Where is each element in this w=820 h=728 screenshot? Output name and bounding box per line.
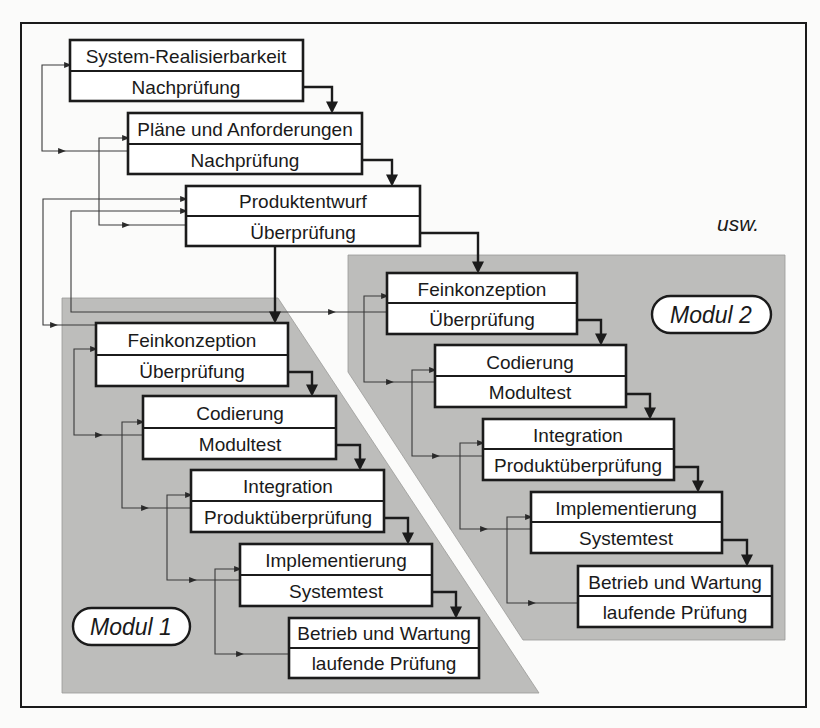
phase-check: Modultest [199,434,282,455]
phase-activity: Pläne und Anforderungen [137,119,353,140]
phase-system-realisierbarkeit: System-Realisierbarkeit Nachprüfung [70,40,303,101]
phase-activity: Feinkonzeption [128,330,257,351]
phase-check: Systemtest [289,581,384,602]
module-2-phase-codierung: Codierung Modultest [435,345,626,407]
phase-activity: Feinkonzeption [418,279,547,300]
module-1-label: Modul 1 [73,608,190,645]
module-2-phase-implementierung: Implementierung Systemtest [531,492,722,553]
module-1-phase-betrieb-wartung: Betrieb und Wartung laufende Prüfung [289,618,479,678]
phase-check: Überprüfung [250,222,356,243]
waterfall-diagram: System-Realisierbarkeit Nachprüfung Plän… [0,0,820,728]
module-2-phase-betrieb-wartung: Betrieb und Wartung laufende Prüfung [578,566,772,627]
phase-activity: Betrieb und Wartung [297,623,471,644]
module-1-phase-feinkonzeption: Feinkonzeption Überprüfung [96,323,288,386]
phase-plaene-anforderungen: Pläne und Anforderungen Nachprüfung [128,113,362,174]
module-1-phase-codierung: Codierung Modultest [143,396,336,459]
phase-activity: System-Realisierbarkeit [86,46,287,67]
phase-check: laufende Prüfung [312,653,457,674]
phase-activity: Integration [243,476,333,497]
continuation-label: usw. [717,212,759,235]
phase-check: Systemtest [579,528,674,549]
module-2-phase-feinkonzeption: Feinkonzeption Überprüfung [387,273,577,334]
phase-check: Modultest [489,382,572,403]
module-2-phase-integration: Integration Produktüberprüfung [483,419,674,480]
phase-produktentwurf: Produktentwurf Überprüfung [186,186,420,246]
phase-activity: Betrieb und Wartung [588,572,762,593]
phase-check: laufende Prüfung [603,602,748,623]
module-1-phase-implementierung: Implementierung Systemtest [240,544,432,606]
phase-activity: Codierung [196,403,284,424]
phase-check: Überprüfung [139,361,245,382]
phase-activity: Implementierung [555,498,697,519]
phase-check: Überprüfung [429,309,535,330]
module-1-phase-integration: Integration Produktüberprüfung [191,470,384,532]
phase-check: Produktüberprüfung [204,507,372,528]
phase-activity: Implementierung [265,550,407,571]
module-1-label-text: Modul 1 [90,614,172,640]
phase-activity: Integration [533,425,623,446]
module-2-label: Modul 2 [652,296,771,333]
phase-activity: Codierung [486,352,574,373]
phase-check: Nachprüfung [191,150,300,171]
phase-check: Nachprüfung [132,77,241,98]
phase-check: Produktüberprüfung [494,455,662,476]
phase-activity: Produktentwurf [239,191,368,212]
module-2-label-text: Modul 2 [670,302,752,328]
